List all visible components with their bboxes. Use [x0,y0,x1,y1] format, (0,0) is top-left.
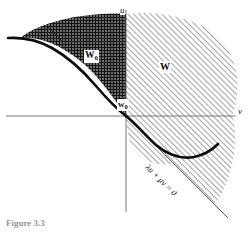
origin-point-label: w0 [117,99,129,111]
v-axis-label: v [238,107,242,116]
figure-caption: Figure 3.3 [6,219,45,228]
u-axis-label: u [120,6,125,15]
region-label-W: W [159,61,171,73]
figure-container: W0 W w0 u v λu + μv = 0 Figure 3.3 [0,0,252,232]
figure-plot [0,0,252,232]
region-W-hatch [126,13,238,204]
region-label-W0: W0 [84,50,99,63]
origin-point [124,114,127,117]
